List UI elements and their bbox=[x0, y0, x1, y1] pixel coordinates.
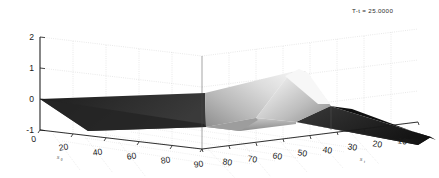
x-tick-label-90: 90 bbox=[193, 158, 204, 169]
surface-plot-3d: T-t = 25.0000 2 1 0 -1 0 20 40 60 80 90 … bbox=[0, 0, 439, 178]
y-tick-label-40: 40 bbox=[322, 144, 333, 155]
y-tick-label-70: 70 bbox=[247, 153, 258, 164]
z-tick-label-2: 2 bbox=[29, 32, 34, 42]
x-tick-label-80: 80 bbox=[160, 154, 171, 165]
x-tick-label-40: 40 bbox=[92, 146, 103, 157]
y-tick-label-20: 20 bbox=[372, 138, 383, 149]
figure-canvas: T-t = 25.0000 2 1 0 -1 0 20 40 60 80 90 … bbox=[0, 0, 439, 178]
x-tick-label-20: 20 bbox=[58, 141, 69, 152]
y-tick-label-60: 60 bbox=[272, 150, 283, 161]
x-tick-label-60: 60 bbox=[126, 150, 137, 161]
z-tick-label-0: 0 bbox=[29, 94, 34, 104]
plot-title: T-t = 25.0000 bbox=[352, 7, 393, 14]
x-axis-label-subscript: 0 bbox=[61, 158, 63, 162]
z-tick-label-1: 1 bbox=[29, 63, 34, 73]
y-tick-label-10: 10 bbox=[397, 135, 408, 146]
y-tick-label-50: 50 bbox=[297, 147, 308, 158]
y-tick-label-30: 30 bbox=[347, 141, 358, 152]
y-tick-label-80: 80 bbox=[222, 156, 233, 167]
